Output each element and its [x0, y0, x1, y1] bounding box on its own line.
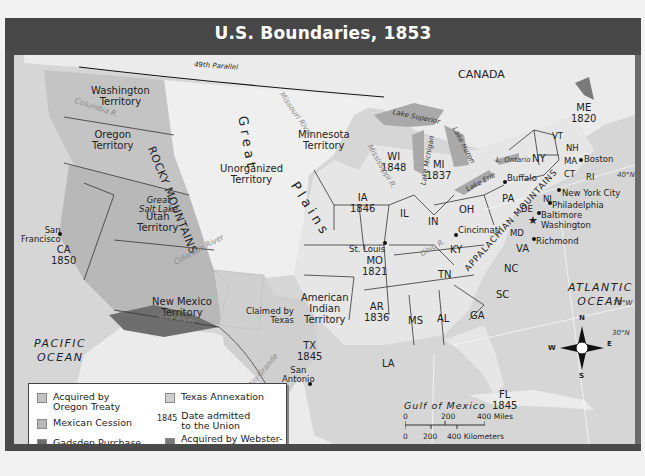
city-marker-new-york [557, 188, 561, 192]
legend-label: Date admittedto the Union [181, 411, 250, 431]
legend-text: Ashburton Treaty [181, 443, 262, 444]
label-canada: CANADA [458, 69, 505, 80]
label-state-il: IL [400, 208, 409, 219]
label-state-la: LA [382, 358, 395, 369]
label-state-fl: FL1845 [492, 389, 517, 411]
label-lat-40: 40°N [617, 170, 635, 181]
scale-line [405, 421, 485, 429]
label-city-st-louis: St. Louis [349, 245, 385, 254]
label-state-ri: RI [586, 173, 594, 182]
label-oregon-territory: OregonTerritory [92, 129, 133, 151]
swatch-oregon-treaty [37, 393, 47, 403]
swatch-texas-annexation [165, 393, 175, 403]
label-claimed-by-texas: Claimed byTexas [246, 307, 294, 325]
label-state-nh: NH [566, 144, 579, 153]
scale-bar: 0 200 400 Miles 0 200 400 Kilometers Alb… [403, 411, 553, 444]
swatch-webster-ashburton [165, 438, 175, 444]
legend-item-texas-annexation: Texas Annexation [165, 392, 264, 403]
label-text: ME [576, 102, 591, 113]
label-state-va: VA [516, 243, 529, 254]
label-text: American [301, 292, 349, 303]
label-state-mo: MO1821 [362, 255, 387, 277]
legend-label: Texas Annexation [181, 392, 264, 402]
label-text: Territory [231, 174, 272, 185]
label-text: Territory [303, 140, 344, 151]
label-state-ga: GA [470, 310, 485, 321]
label-text: 1846 [350, 203, 375, 214]
legend-item-webster-ashburton: Acquired by Webster-Ashburton Treaty [165, 434, 282, 444]
label-text: 1850 [51, 255, 76, 266]
legend-year-sample: 1845 [157, 414, 177, 424]
legend-label: Gadsden Purchase [53, 438, 141, 444]
scale-km-400: 400 Kilometers [447, 431, 504, 442]
label-state-tn: TN [438, 269, 452, 280]
legend-label: Mexican Cession [53, 418, 132, 428]
label-state-ms: MS [408, 315, 423, 326]
label-lat-30: 30°N [612, 328, 630, 339]
capital-star-icon: ★ [528, 215, 538, 226]
label-state-me: ME1820 [571, 102, 596, 124]
compass-rose-icon: N S W E [557, 323, 607, 373]
label-state-ca: CA1850 [51, 244, 76, 266]
label-text: 1820 [571, 113, 596, 124]
label-great-salt-lake: GreatSalt Lake [139, 196, 178, 214]
label-text: 1845 [297, 351, 322, 362]
scale-km-200: 200 [423, 431, 437, 442]
swatch-gadsden-purchase [37, 439, 47, 444]
label-text: Texas [270, 315, 294, 325]
label-state-md: MD [510, 229, 524, 238]
compass-n: N [579, 314, 585, 322]
label-state-sc: SC [496, 289, 509, 300]
label-lake-ontario: L. Ontario [496, 155, 530, 166]
label-lon-70: 70°W [613, 298, 632, 309]
label-state-in: IN [428, 216, 438, 227]
label-text: CA [57, 244, 71, 255]
label-american-indian-territory: AmericanIndianTerritory [301, 292, 349, 325]
legend-item-gadsden-purchase: Gadsden Purchase [37, 438, 141, 444]
label-text: New Mexico [152, 296, 212, 307]
label-city-baltimore: Baltimore [541, 211, 582, 220]
label-text: Territory [137, 222, 178, 233]
label-text: TX [303, 340, 316, 351]
label-state-al: AL [437, 313, 449, 324]
compass-graphic [557, 323, 607, 373]
label-city-buffalo: Buffalo [507, 174, 537, 183]
label-text: PACIFIC [34, 337, 86, 350]
compass-s: S [579, 372, 584, 380]
label-pacific-ocean: PACIFICOCEAN [34, 337, 86, 365]
label-state-nc: NC [504, 263, 518, 274]
map-area: WashingtonTerritory OregonTerritory Minn… [14, 55, 635, 444]
scale-projection: Albers Equal-Area Projection [403, 443, 481, 444]
label-text: 1836 [364, 312, 389, 323]
label-city-richmond: Richmond [536, 237, 579, 246]
label-text: 1845 [492, 400, 517, 411]
label-text: IA [358, 192, 368, 203]
legend-label: Acquired by Webster-Ashburton Treaty [181, 434, 282, 444]
label-state-ma: MA [564, 157, 577, 166]
scale-km-0: 0 [403, 431, 408, 442]
label-city-boston: Boston [584, 155, 613, 164]
label-text: MI [433, 159, 445, 170]
label-text: WI [387, 151, 400, 162]
compass-w: W [548, 344, 556, 352]
label-city-san-antonio: SanAntonio [282, 366, 315, 384]
label-text: FL [499, 389, 510, 400]
map-frame: U.S. Boundaries, 1853 [5, 18, 641, 451]
label-city-new-york: New York City [562, 189, 620, 198]
label-text: Salt Lake [139, 204, 178, 214]
label-text: Francisco [21, 234, 61, 244]
frame-shadow [635, 55, 641, 444]
label-text: ATLANTIC [568, 281, 633, 294]
label-text: 1821 [362, 266, 387, 277]
label-state-pa: PA [502, 193, 514, 204]
label-state-oh: OH [459, 204, 474, 215]
label-text: Washington [91, 85, 150, 96]
label-text: Territory [92, 140, 133, 151]
label-state-ny: NY [532, 153, 546, 164]
legend-label: Acquired byOregon Treaty [53, 392, 120, 412]
legend-item-oregon-treaty: Acquired byOregon Treaty [37, 392, 120, 412]
map-title: U.S. Boundaries, 1853 [5, 23, 641, 43]
legend-item-mexican-cession: Mexican Cession [37, 418, 132, 429]
swatch-mexican-cession [37, 419, 47, 429]
label-text: Indian [309, 303, 340, 314]
